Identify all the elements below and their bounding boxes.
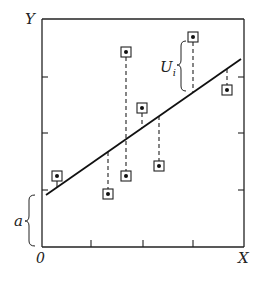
data-point [137,103,147,113]
regression-line [46,59,241,195]
intercept-label: a [14,212,23,230]
y-axis-label: Y [25,10,37,28]
residual-lines [57,42,227,189]
data-point [188,32,198,42]
data-point [121,171,131,181]
data-point [121,47,131,57]
origin-label: 0 [36,250,45,266]
data-point [154,161,164,171]
axes-frame [42,19,244,247]
residual-brace [177,41,186,91]
data-point [222,85,232,95]
intercept-brace [25,195,35,246]
residual-subscript: i [173,67,176,78]
residual-label: Ui [160,58,176,78]
data-point [52,171,62,181]
x-axis-label: X [237,249,250,267]
regression-residuals-diagram: Ui a Y X 0 [0,0,269,281]
data-point [103,189,113,199]
